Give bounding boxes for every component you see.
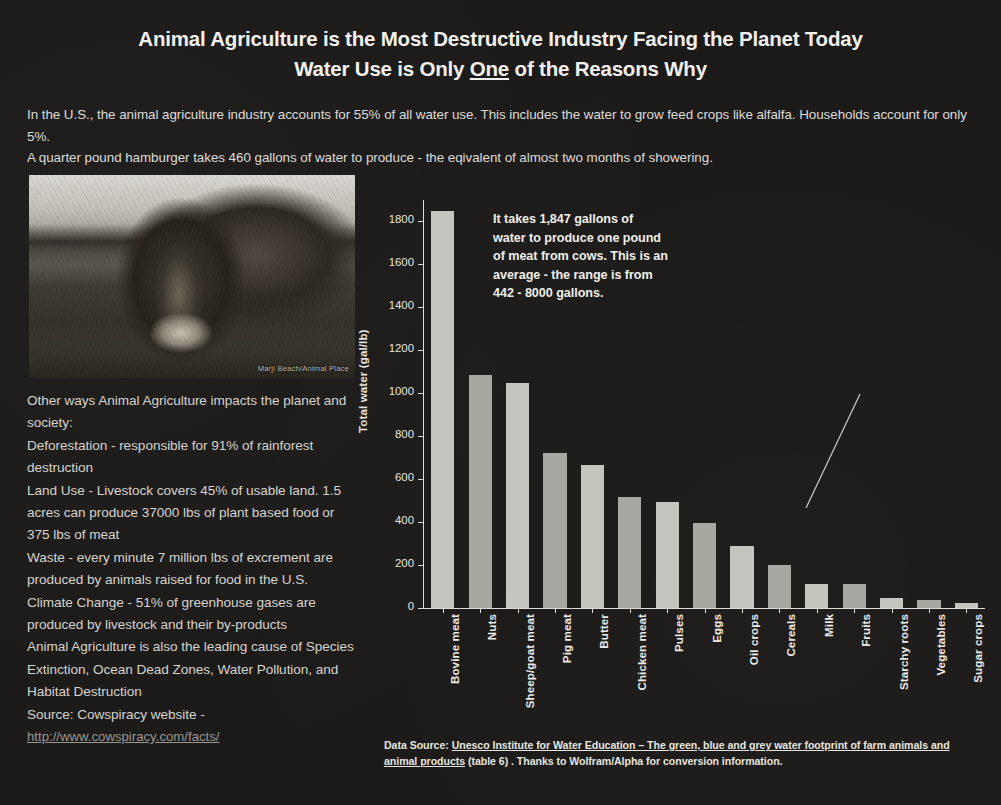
x-axis-tick-label: Pig meat — [560, 614, 573, 663]
x-axis-tick-mark — [555, 608, 556, 613]
source-label: Source: Cowspiracy website - — [27, 704, 359, 726]
x-axis-tick-mark — [892, 608, 893, 613]
bovine-callout-text: It takes 1,847 gallons of water to produ… — [493, 210, 668, 303]
callout-leader-line — [804, 392, 862, 510]
chart-bar[interactable] — [581, 465, 604, 608]
chart-bar[interactable] — [656, 502, 679, 608]
bovine-callout: It takes 1,847 gallons of water to produ… — [493, 210, 668, 303]
chart-bar[interactable] — [469, 375, 492, 608]
x-axis-tick-mark — [667, 608, 668, 613]
chart-bar[interactable] — [543, 453, 566, 608]
impact-land-use: Land Use - Livestock covers 45% of usabl… — [27, 480, 359, 547]
bar-slot: Vegetables — [910, 200, 947, 608]
y-axis-tick-mark — [418, 393, 423, 394]
y-axis-tick-mark — [418, 307, 423, 308]
chart-bar[interactable] — [693, 523, 716, 608]
y-axis-tick-mark — [418, 436, 423, 437]
impacts-text-block: Other ways Animal Agriculture impacts th… — [27, 390, 359, 749]
impacts-heading: Other ways Animal Agriculture impacts th… — [27, 390, 359, 435]
x-axis-tick-label: Chicken meat — [635, 614, 648, 691]
title-line-2-prefix: Water Use is Only — [294, 57, 470, 80]
y-axis-tick-mark — [418, 350, 423, 351]
title-line-1-emphasis: Animal Agriculture — [138, 27, 317, 50]
bar-slot: Oil crops — [723, 200, 760, 608]
bar-slot: Bovine meat — [424, 200, 461, 608]
x-axis-tick-mark — [592, 608, 593, 613]
impact-deforestation: Deforestation - responsible for 91% of r… — [27, 435, 359, 480]
footer-text: Data Source: Unesco Institute for Water … — [384, 738, 984, 769]
chart-bar[interactable] — [618, 497, 641, 608]
cow-photo: Marji Beach/Animal Place — [29, 175, 355, 378]
y-axis-tick-label: 800 — [395, 428, 414, 440]
chart-bar[interactable] — [805, 584, 828, 608]
x-axis-tick-mark — [518, 608, 519, 613]
y-axis-tick-mark — [418, 608, 423, 609]
y-axis-tick-mark — [418, 479, 423, 480]
chart-bar[interactable] — [917, 600, 940, 608]
y-axis-tick-label: 1000 — [389, 385, 414, 397]
x-axis-tick-label: Sugar crops — [971, 614, 984, 683]
impact-waste: Waste - every minute 7 million lbs of ex… — [27, 547, 359, 592]
x-axis-tick-label: Fruits — [859, 614, 872, 647]
y-axis-tick-mark — [418, 522, 423, 523]
y-axis-tick-label: 0 — [408, 600, 414, 612]
x-axis-tick-mark — [779, 608, 780, 613]
y-axis-tick-label: 400 — [395, 514, 414, 526]
x-axis-tick-mark — [854, 608, 855, 613]
title-line-2: Water Use is Only One of the Reasons Why — [0, 54, 1001, 84]
footer-prefix: Data Source: — [384, 739, 452, 751]
title-line-2-suffix: of the Reasons Why — [509, 57, 707, 80]
x-axis-tick-label: Eggs — [710, 614, 723, 643]
chart-bar[interactable] — [843, 584, 866, 608]
x-axis-tick-label: Bovine meat — [448, 614, 461, 684]
bar-slot: Starchy roots — [873, 200, 910, 608]
x-axis-tick-label: Milk — [822, 614, 835, 637]
x-axis-tick-label: Sheep/goat meat — [523, 614, 536, 708]
x-axis-tick-label: Butter — [597, 614, 610, 649]
chart-bar[interactable] — [506, 383, 529, 608]
y-axis-tick-label: 600 — [395, 471, 414, 483]
cowspiracy-link[interactable]: http://www.cowspiracy.com/facts/ — [27, 726, 220, 748]
impact-climate-change: Climate Change - 51% of greenhouse gases… — [27, 592, 359, 637]
bar-slot: Cereals — [761, 200, 798, 608]
x-axis-tick-mark — [480, 608, 481, 613]
y-axis-tick-label: 1600 — [389, 256, 414, 268]
bar-slot: Eggs — [686, 200, 723, 608]
bar-slot: Sugar crops — [948, 200, 985, 608]
x-axis-tick-mark — [929, 608, 930, 613]
y-axis-tick-label: 1200 — [389, 342, 414, 354]
x-axis-tick-label: Vegetables — [934, 614, 947, 676]
footer-suffix: (table 6) . Thanks to Wolfram/Alpha for … — [465, 755, 782, 767]
title-line-1: Animal Agriculture is the Most Destructi… — [0, 24, 1001, 54]
x-axis-tick-mark — [742, 608, 743, 613]
intro-paragraphs: In the U.S., the animal agriculture indu… — [27, 104, 975, 169]
infographic-poster: Animal Agriculture is the Most Destructi… — [0, 0, 1001, 805]
intro-paragraph-1: In the U.S., the animal agriculture indu… — [27, 104, 975, 147]
impact-leading-cause: Animal Agriculture is also the leading c… — [27, 636, 359, 703]
chart-bar[interactable] — [730, 546, 753, 608]
y-axis-tick-mark — [418, 565, 423, 566]
x-axis-tick-label: Oil crops — [747, 614, 760, 665]
y-axis-tick-label: 1400 — [389, 299, 414, 311]
x-axis-tick-mark — [705, 608, 706, 613]
x-axis-tick-label: Pulses — [672, 614, 685, 652]
y-axis-tick-label: 200 — [395, 557, 414, 569]
y-axis-tick-label: 1800 — [389, 213, 414, 225]
intro-paragraph-2: A quarter pound hamburger takes 460 gall… — [27, 147, 975, 169]
photo-credit: Marji Beach/Animal Place — [258, 364, 349, 373]
y-axis-title: Total water (gal/lb) — [356, 329, 369, 433]
chart-bar[interactable] — [880, 598, 903, 608]
x-axis-tick-mark — [817, 608, 818, 613]
title-line-2-underlined: One — [470, 57, 509, 80]
x-axis-tick-mark — [630, 608, 631, 613]
chart-bar[interactable] — [431, 211, 454, 608]
data-source-footer: Data Source: Unesco Institute for Water … — [384, 738, 984, 769]
water-use-bar-chart: Total water (gal/lb) 0200400600800100012… — [358, 178, 988, 738]
y-axis-tick-mark — [418, 221, 423, 222]
x-axis-tick-label: Cereals — [784, 614, 797, 657]
title-line-1-rest: is the Most Destructive Industry Facing … — [317, 27, 862, 50]
x-axis-tick-label: Starchy roots — [897, 614, 910, 690]
x-axis-tick-mark — [966, 608, 967, 613]
chart-bar[interactable] — [768, 565, 791, 608]
y-axis-tick-mark — [418, 264, 423, 265]
